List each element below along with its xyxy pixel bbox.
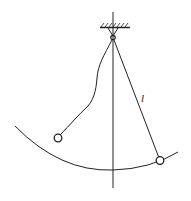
left-bob [54, 134, 62, 142]
pendulum-figure [0, 0, 191, 201]
length-label: l [141, 92, 144, 104]
pendulum-diagram: l [0, 0, 191, 201]
taut-string [114, 40, 159, 158]
right-bob [156, 157, 164, 165]
ceiling-hatch [101, 23, 128, 27]
slack-string [60, 40, 112, 135]
swing-arc [15, 126, 178, 170]
